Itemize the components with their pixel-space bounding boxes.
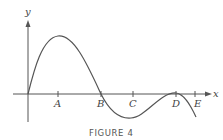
point-label-c: C — [129, 98, 137, 109]
figure-caption: FIGURE 4 — [89, 128, 133, 138]
point-label-d: D — [171, 98, 180, 109]
x-axis-label: x — [213, 88, 219, 99]
figure-graph: y x A B C D E FIGURE 4 — [0, 0, 223, 140]
point-label-e: E — [193, 98, 202, 109]
point-label-b: B — [96, 98, 104, 109]
y-axis-arrow-icon — [26, 20, 31, 27]
y-axis-label: y — [24, 6, 31, 17]
point-label-a: A — [53, 98, 61, 109]
x-axis-arrow-icon — [205, 92, 212, 97]
